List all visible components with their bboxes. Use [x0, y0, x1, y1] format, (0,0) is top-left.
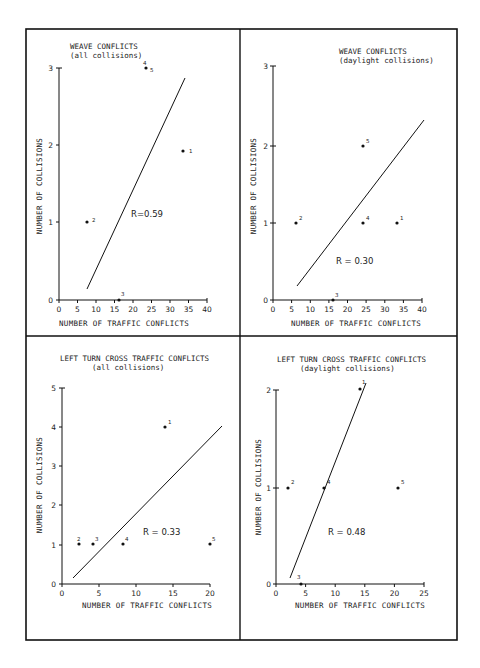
svg-text:5: 5 — [212, 536, 216, 542]
correlation-label: R=0.59 — [131, 209, 163, 219]
y-axis-title: NUMBER OF COLLISIONS — [249, 138, 258, 234]
svg-text:1: 1 — [51, 541, 56, 550]
figure-frame — [26, 29, 457, 640]
data-point — [331, 298, 334, 301]
svg-text:2: 2 — [299, 215, 303, 221]
axes — [270, 66, 422, 303]
svg-text:25: 25 — [419, 589, 429, 598]
svg-text:3: 3 — [48, 64, 53, 73]
svg-text:0: 0 — [60, 589, 65, 598]
panel-weave-daylight: WEAVE CONFLICTS (daylight collisions) NU… — [249, 47, 434, 328]
point-labels: 1 2 3 4 5 — [299, 138, 404, 298]
x-tick-labels: 0 5 10 15 20 — [60, 589, 215, 598]
data-point — [294, 221, 297, 224]
svg-text:0: 0 — [51, 580, 56, 589]
data-point — [77, 542, 80, 545]
svg-text:4: 4 — [366, 215, 370, 221]
data-point — [322, 486, 325, 489]
y-tick-labels: 0 1 2 — [266, 386, 271, 589]
svg-text:0: 0 — [271, 305, 276, 314]
panel-title: WEAVE CONFLICTS — [339, 47, 407, 56]
point-labels: 1 2 3 4 5 — [77, 419, 216, 542]
svg-text:3: 3 — [335, 292, 339, 298]
x-tick-labels: 0 5 10 15 20 25 30 35 40 — [271, 305, 427, 314]
svg-text:20: 20 — [128, 305, 138, 314]
data-point — [208, 542, 211, 545]
svg-text:4: 4 — [327, 479, 331, 485]
figure: WEAVE CONFLICTS (all collisions) NUMBER … — [0, 0, 480, 668]
svg-text:10: 10 — [91, 305, 101, 314]
svg-text:5: 5 — [289, 305, 294, 314]
panel-subtitle: (daylight collisions) — [300, 364, 395, 373]
svg-text:2: 2 — [291, 479, 295, 485]
svg-text:0: 0 — [263, 296, 268, 305]
svg-text:1: 1 — [362, 379, 366, 385]
regression-line — [87, 78, 185, 289]
x-tick-labels: 0 5 10 15 20 25 — [274, 589, 429, 598]
panel-title: WEAVE CONFLICTS — [70, 42, 138, 51]
correlation-label: R = 0.33 — [143, 527, 180, 537]
svg-text:4: 4 — [143, 60, 147, 66]
point-labels: 1 2 3 4 5 — [291, 379, 405, 580]
y-tick-labels: 0 1 2 3 4 5 — [51, 384, 56, 589]
svg-text:10: 10 — [330, 589, 340, 598]
svg-text:3: 3 — [95, 536, 99, 542]
svg-text:30: 30 — [165, 305, 175, 314]
data-point — [181, 149, 184, 152]
svg-text:1: 1 — [400, 215, 404, 221]
svg-text:4: 4 — [51, 423, 56, 432]
panel-subtitle: (all collisions) — [70, 51, 142, 60]
svg-text:0: 0 — [266, 580, 271, 589]
svg-text:2: 2 — [48, 141, 53, 150]
svg-text:35: 35 — [184, 305, 194, 314]
svg-text:5: 5 — [150, 67, 154, 73]
axes — [59, 388, 210, 587]
svg-text:20: 20 — [390, 589, 400, 598]
svg-text:3: 3 — [297, 574, 301, 580]
data-point — [117, 298, 120, 301]
correlation-label: R = 0.48 — [328, 527, 365, 537]
x-axis-title: NUMBER OF TRAFFIC CONFLICTS — [59, 319, 189, 328]
svg-text:3: 3 — [51, 462, 56, 471]
point-labels: 1 2 3 4 5 — [92, 60, 193, 297]
data-point — [358, 387, 361, 390]
data-points — [85, 66, 184, 301]
svg-text:4: 4 — [125, 536, 129, 542]
y-axis-title: NUMBER OF COLLISIONS — [35, 437, 44, 533]
correlation-label: R = 0.30 — [336, 256, 373, 266]
svg-text:15: 15 — [360, 589, 370, 598]
data-point — [396, 486, 399, 489]
svg-text:0: 0 — [48, 296, 53, 305]
svg-text:15: 15 — [110, 305, 120, 314]
svg-text:0: 0 — [57, 305, 62, 314]
svg-text:30: 30 — [380, 305, 390, 314]
panel-weave-all: WEAVE CONFLICTS (all collisions) NUMBER … — [35, 42, 212, 328]
y-axis-title: NUMBER OF COLLISIONS — [254, 439, 263, 535]
y-tick-labels: 0 1 2 3 — [48, 64, 53, 305]
svg-text:5: 5 — [401, 479, 405, 485]
data-point — [163, 425, 166, 428]
svg-text:1: 1 — [266, 484, 271, 493]
x-axis-title: NUMBER OF TRAFFIC CONFLICTS — [82, 601, 212, 610]
svg-text:1: 1 — [48, 218, 53, 227]
svg-text:5: 5 — [75, 305, 80, 314]
svg-text:3: 3 — [263, 62, 268, 71]
svg-text:5: 5 — [366, 138, 370, 144]
panel-subtitle: (all collisions) — [92, 363, 164, 372]
svg-text:10: 10 — [131, 589, 141, 598]
data-point — [299, 582, 302, 585]
svg-text:40: 40 — [417, 305, 427, 314]
svg-text:2: 2 — [266, 386, 271, 395]
data-points — [286, 387, 399, 585]
panel-subtitle: (daylight collisions) — [339, 56, 434, 65]
regression-line — [73, 426, 222, 578]
axes — [273, 390, 424, 587]
svg-text:15: 15 — [324, 305, 334, 314]
svg-text:2: 2 — [263, 142, 268, 151]
svg-text:5: 5 — [51, 384, 56, 393]
svg-text:10: 10 — [306, 305, 316, 314]
data-point — [361, 144, 364, 147]
svg-text:3: 3 — [121, 291, 125, 297]
data-point — [395, 221, 398, 224]
svg-text:1: 1 — [189, 148, 193, 154]
